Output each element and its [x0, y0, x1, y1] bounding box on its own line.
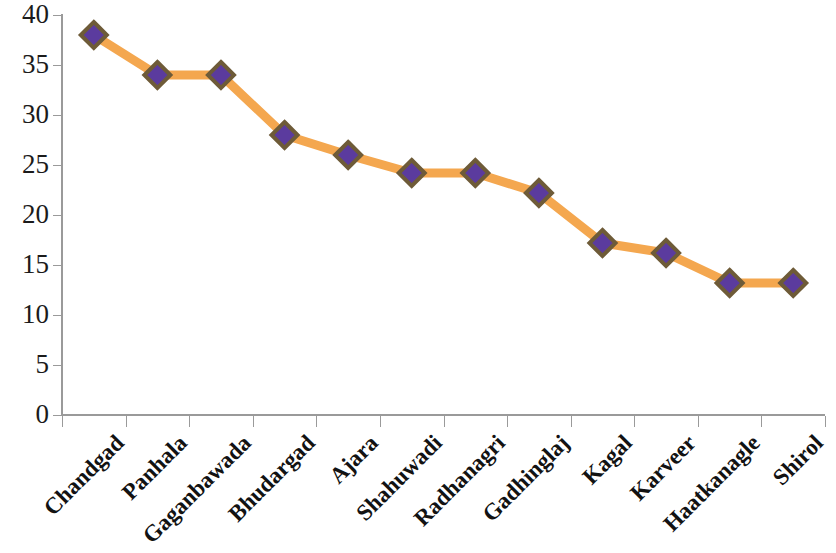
- x-axis-category-label: Chandgad: [39, 431, 128, 520]
- x-axis-labels: ChandgadPanhalaGaganbawadaBhudargadAjara…: [0, 0, 836, 553]
- line-chart: 0510152025303540 ChandgadPanhalaGaganbaw…: [0, 0, 836, 553]
- x-axis-category-label: Ajara: [325, 431, 382, 488]
- x-axis-category-label: Kagal: [579, 431, 637, 489]
- x-axis-category-label: Shirol: [769, 431, 827, 489]
